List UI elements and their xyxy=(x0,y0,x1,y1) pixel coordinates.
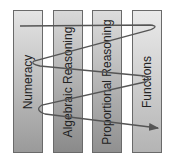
zigzag-connector xyxy=(0,0,172,168)
zigzag-arrow-path xyxy=(20,25,158,128)
